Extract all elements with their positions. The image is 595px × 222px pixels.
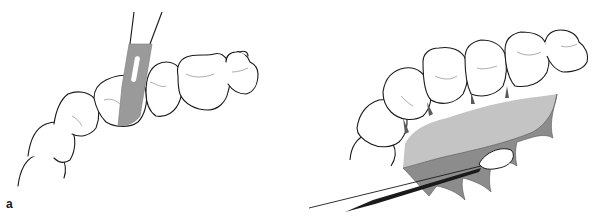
panel-b: b: [295, 0, 595, 222]
tooth-row-with-blade-illustration: [0, 0, 295, 222]
tooth-row-with-reflected-flap-illustration: [295, 0, 595, 222]
panel-a: a: [0, 0, 295, 222]
panel-label-a: a: [6, 198, 13, 210]
